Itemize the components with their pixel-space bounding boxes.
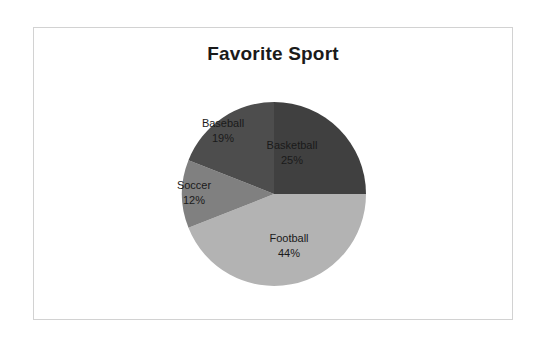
chart-frame: Favorite Sport Basketball 25% Football 4… <box>33 27 513 320</box>
slice-label-basketball: Basketball 25% <box>252 138 332 167</box>
slice-label-soccer-value: 12% <box>158 193 230 208</box>
slice-label-baseball: Baseball 19% <box>185 116 261 145</box>
slice-label-football-value: 44% <box>249 246 329 261</box>
slice-label-basketball-value: 25% <box>252 153 332 168</box>
slice-label-football: Football 44% <box>249 231 329 260</box>
pie-chart: Basketball 25% Football 44% Soccer 12% B… <box>34 28 514 321</box>
slice-label-baseball-value: 19% <box>185 131 261 146</box>
slice-label-baseball-name: Baseball <box>185 116 261 131</box>
slice-label-soccer-name: Soccer <box>158 178 230 193</box>
slice-label-basketball-name: Basketball <box>252 138 332 153</box>
slice-label-football-name: Football <box>249 231 329 246</box>
slice-label-soccer: Soccer 12% <box>158 178 230 207</box>
